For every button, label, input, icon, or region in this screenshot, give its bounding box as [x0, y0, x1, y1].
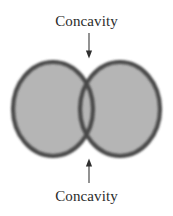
top-arrow [86, 33, 92, 59]
bottom-arrow [86, 159, 92, 184]
concavity-figure: Concavity Concavity [0, 0, 173, 216]
arrow-annotations [0, 0, 173, 216]
